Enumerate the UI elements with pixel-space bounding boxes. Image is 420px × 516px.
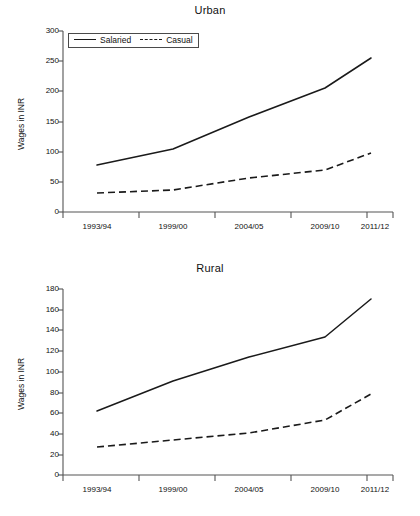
chart-panel-urban: Urban Wages in INR 300 250 200 150 100 5…: [0, 0, 420, 258]
y-tick-rural-40: 40: [33, 429, 59, 438]
legend-entry-casual-urban: Casual: [140, 36, 192, 45]
y-tick-rural-180: 180: [33, 284, 59, 293]
series-line-urban-casual: [97, 153, 371, 193]
plot-area-rural: [0, 258, 420, 516]
y-tick-rural-140: 140: [33, 325, 59, 334]
legend-swatch-solid-icon: [74, 37, 96, 43]
series-line-rural-salaried: [97, 299, 371, 411]
y-tick-rural-20: 20: [33, 450, 59, 459]
legend-label-casual: Casual: [166, 36, 192, 45]
y-tick-rural-0: 0: [33, 470, 59, 479]
chart-panel-rural: Rural: [0, 258, 420, 516]
legend-entry-salaried-urban: Salaried: [74, 36, 131, 45]
series-line-rural-casual: [97, 394, 371, 447]
series-line-urban-salaried: [97, 58, 371, 165]
legend-urban: Salaried Casual: [68, 33, 199, 48]
y-tick-rural-120: 120: [33, 346, 59, 355]
x-tick-rural-1993-94: 1993/94: [67, 485, 127, 494]
plot-area-urban: [0, 0, 420, 258]
y-tick-rural-60: 60: [33, 408, 59, 417]
legend-label-salaried: Salaried: [100, 36, 131, 45]
figure-wages-urban-rural: Urban Wages in INR 300 250 200 150 100 5…: [0, 0, 420, 516]
x-tick-rural-1999-00: 1999/00: [143, 485, 203, 494]
y-tick-rural-160: 160: [33, 305, 59, 314]
y-tick-rural-80: 80: [33, 388, 59, 397]
x-tick-rural-2004-05: 2004/05: [219, 485, 279, 494]
y-axis-label-rural: Wages in INR: [16, 358, 26, 410]
y-tick-rural-100: 100: [33, 367, 59, 376]
x-tick-rural-2011-12: 2011/12: [345, 485, 405, 494]
legend-swatch-dashed-icon: [140, 37, 162, 43]
